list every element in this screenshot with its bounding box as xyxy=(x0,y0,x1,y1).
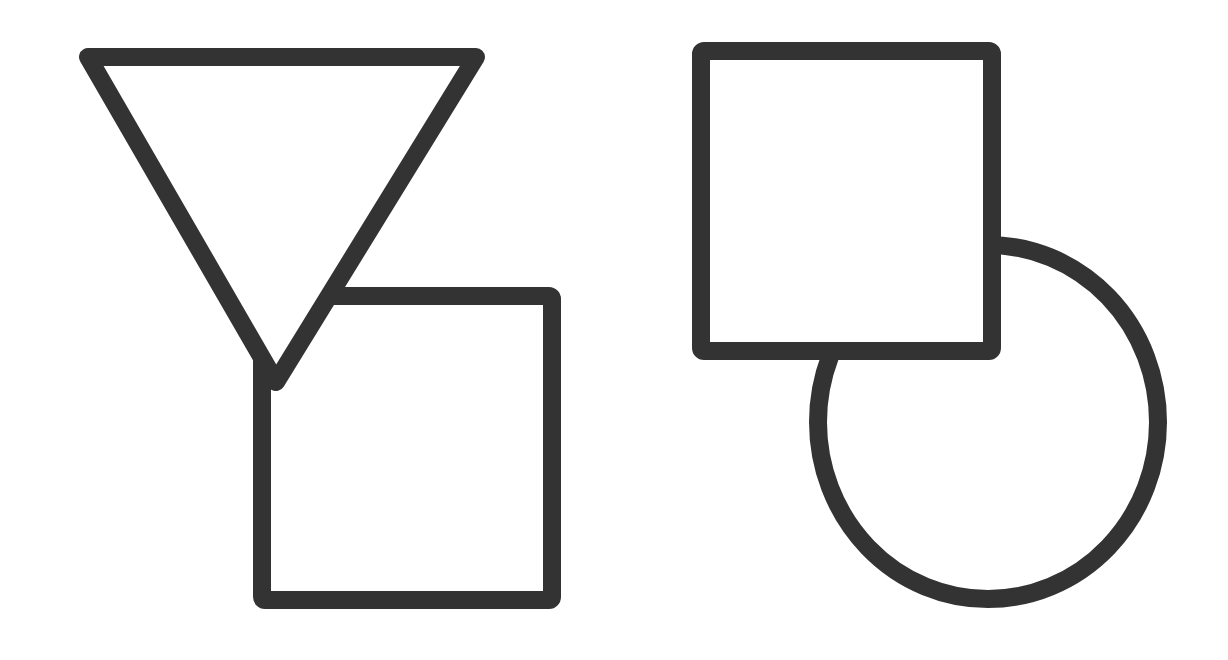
right-square xyxy=(701,51,992,351)
left-figure xyxy=(88,57,552,600)
shapes-diagram xyxy=(0,0,1228,660)
right-figure xyxy=(701,51,1158,599)
inverted-triangle xyxy=(88,57,476,382)
